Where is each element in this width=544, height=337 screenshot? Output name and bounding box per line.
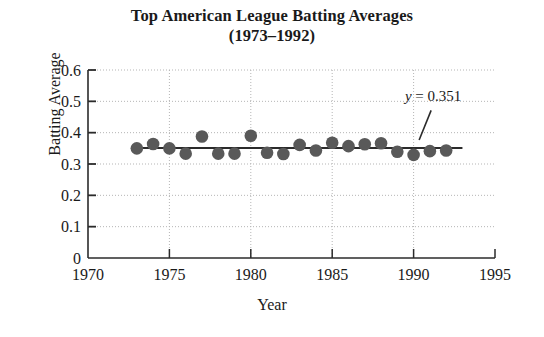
data-point (375, 137, 388, 150)
data-point (163, 142, 176, 155)
data-point (131, 142, 144, 155)
data-point (293, 139, 306, 152)
x-tick-label: 1980 (235, 266, 267, 283)
data-point (277, 148, 290, 161)
y-tick-label: 0.2 (61, 187, 81, 204)
data-point (407, 149, 420, 162)
data-point (310, 144, 323, 157)
data-point (212, 147, 225, 160)
data-point (179, 147, 192, 160)
x-tick-label: 1995 (479, 266, 511, 283)
data-point (196, 130, 209, 143)
data-point (261, 146, 274, 159)
data-point (440, 144, 453, 157)
y-axis-ticks-group: 00.10.20.30.40.50.6 (61, 62, 96, 267)
y-tick-label: 0.5 (61, 93, 81, 110)
x-axis-ticks-group: 197019751980198519901995 (72, 249, 511, 283)
x-tick-label: 1970 (72, 266, 104, 283)
y-tick-label: 0.1 (61, 218, 81, 235)
scatter-plot-canvas: 00.10.20.30.40.50.6 19701975198019851990… (0, 0, 544, 337)
data-point (391, 145, 404, 158)
annotation-group: y = 0.351 (403, 88, 461, 140)
annotation-leader-line (419, 110, 431, 140)
data-point (245, 130, 258, 143)
y-tick-label: 0.4 (61, 124, 81, 141)
data-point (342, 140, 355, 153)
x-tick-label: 1985 (316, 266, 348, 283)
plot-area: 00.10.20.30.40.50.6 19701975198019851990… (0, 0, 544, 337)
x-tick-label: 1990 (398, 266, 430, 283)
data-point (326, 136, 339, 149)
data-point (358, 138, 371, 151)
data-points-group (131, 130, 453, 162)
y-tick-label: 0.3 (61, 156, 81, 173)
chart-figure: Top American League Batting Averages (19… (0, 0, 544, 337)
data-point (424, 145, 437, 158)
y-tick-label: 0.6 (61, 62, 81, 79)
data-point (147, 138, 160, 151)
x-tick-label: 1975 (153, 266, 185, 283)
fit-line-annotation: y = 0.351 (403, 88, 461, 104)
y-tick-label: 0 (73, 250, 81, 267)
data-point (228, 147, 241, 160)
